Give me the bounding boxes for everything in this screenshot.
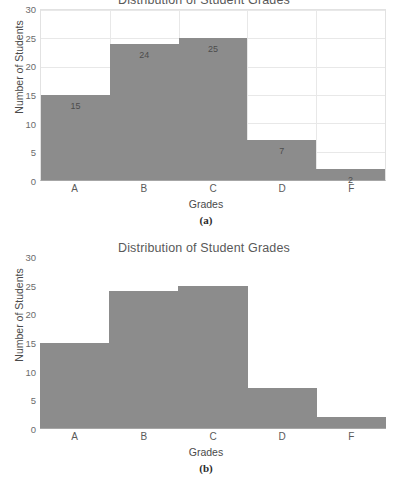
chart-title-a: Distribution of Student Grades: [0, 0, 394, 9]
x-tick-label: F: [317, 429, 386, 445]
bar-F[interactable]: [317, 417, 386, 428]
x-axis-ticks-a: ABCDF: [40, 181, 386, 197]
bar-cell: 24: [110, 10, 179, 180]
bar-cell: [178, 257, 247, 428]
y-tick-label: 5: [14, 147, 36, 158]
bar-cell: [248, 257, 317, 428]
bar-cell: [317, 257, 386, 428]
bar-C[interactable]: [178, 286, 247, 429]
x-tick-label: D: [248, 429, 317, 445]
y-tick-label: 25: [14, 32, 36, 43]
bar-D[interactable]: [248, 388, 317, 428]
y-tick-label: 15: [14, 338, 36, 349]
chart-body-b: Number of Students 051015202530 ABCDF: [0, 257, 394, 429]
bar-cell: 15: [41, 10, 110, 180]
x-tick-label: B: [109, 429, 178, 445]
y-tick-label: 30: [14, 252, 36, 263]
bar-B[interactable]: [110, 44, 179, 180]
x-tick-label: B: [109, 181, 178, 197]
bar-cell: 2: [316, 10, 385, 180]
bar-cell: [109, 257, 178, 428]
x-axis-label-b: Grades: [0, 446, 394, 458]
x-tick-label: C: [178, 429, 247, 445]
bar-value-label: 24: [110, 50, 179, 60]
figure-panel-a: Distribution of Student Grades Number of…: [0, 0, 394, 240]
y-tick-label: 10: [14, 366, 36, 377]
x-tick-label: C: [178, 181, 247, 197]
bar-C[interactable]: [179, 38, 248, 180]
figure-panel-b: Distribution of Student Grades Number of…: [0, 240, 394, 484]
y-tick-label: 10: [14, 118, 36, 129]
plot-area-b: [40, 257, 386, 429]
chart-body-a: Number of Students 051015202530 15242572…: [0, 9, 394, 181]
y-tick-label: 5: [14, 395, 36, 406]
panel-caption-a: (a): [0, 214, 394, 226]
y-axis-ticks-a: 051015202530: [14, 9, 36, 181]
bar-series-b: [40, 257, 386, 428]
x-axis-ticks-b: ABCDF: [40, 429, 386, 445]
y-tick-label: 30: [14, 4, 36, 15]
y-tick-label: 15: [14, 90, 36, 101]
plot-area-a: 15242572: [40, 9, 386, 181]
y-tick-label: 20: [14, 309, 36, 320]
bar-value-label: 15: [41, 101, 110, 111]
bar-A[interactable]: [40, 343, 109, 429]
y-tick-label: 20: [14, 61, 36, 72]
y-tick-label: 0: [14, 424, 36, 435]
x-tick-label: A: [40, 181, 109, 197]
x-tick-label: D: [248, 181, 317, 197]
bar-B[interactable]: [109, 291, 178, 428]
y-axis-ticks-b: 051015202530: [14, 257, 36, 429]
panel-caption-b: (b): [0, 462, 394, 474]
bar-value-label: 7: [247, 146, 316, 156]
x-tick-label: F: [317, 181, 386, 197]
chart-title-b: Distribution of Student Grades: [0, 240, 394, 257]
bar-cell: 7: [247, 10, 316, 180]
bar-cell: 25: [179, 10, 248, 180]
y-tick-label: 0: [14, 176, 36, 187]
x-axis-label-a: Grades: [0, 198, 394, 210]
bar-cell: [40, 257, 109, 428]
bar-series-a: 15242572: [41, 10, 385, 180]
y-tick-label: 25: [14, 280, 36, 291]
x-tick-label: A: [40, 429, 109, 445]
bar-value-label: 25: [179, 44, 248, 54]
